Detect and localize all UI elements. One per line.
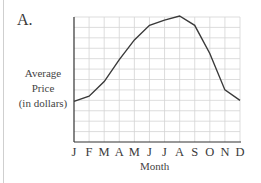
grid <box>74 17 240 142</box>
x-tick-label: M <box>129 145 140 160</box>
x-tick-label: D <box>235 145 244 160</box>
x-tick-label: O <box>205 145 214 160</box>
x-tick-label: F <box>86 145 93 160</box>
x-axis-ticks: JFMAMJJASOND <box>0 145 261 159</box>
x-tick-label: J <box>147 145 152 160</box>
x-tick-label: N <box>220 145 229 160</box>
x-tick-label: M <box>99 145 110 160</box>
x-tick-label: J <box>162 145 167 160</box>
x-axis-label: Month <box>140 160 169 172</box>
x-tick-label: J <box>72 145 77 160</box>
x-tick-label: A <box>115 145 124 160</box>
x-tick-label: A <box>175 145 184 160</box>
x-tick-label: S <box>191 145 198 160</box>
